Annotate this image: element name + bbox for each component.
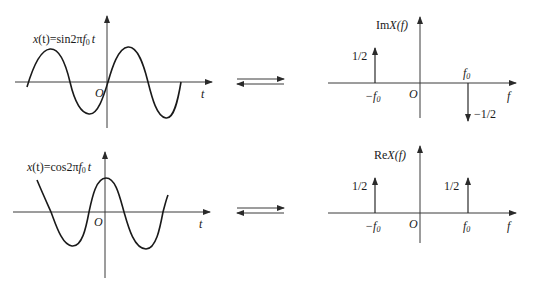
transform-arrows-bottom xyxy=(237,208,284,213)
origin-label: O xyxy=(409,87,418,101)
f-axis-label: f xyxy=(507,219,512,233)
re-axis-label: ReX(f) xyxy=(374,148,406,162)
im-axis-label: ImX(f) xyxy=(376,18,408,32)
origin-label: O xyxy=(409,217,418,231)
pos-impulse-value: 1/2 xyxy=(444,179,459,193)
neg-impulse-value: 1/2 xyxy=(352,179,367,193)
cos-formula: x(t)=cos2πf0t xyxy=(26,160,92,175)
neg-impulse-value: 1/2 xyxy=(352,49,367,63)
neg-f0-label: −f0 xyxy=(365,219,380,234)
pos-f0-label: f0 xyxy=(463,66,470,81)
transform-arrows-top xyxy=(237,79,284,84)
t-axis-label: t xyxy=(199,217,203,231)
pos-f0-label: f0 xyxy=(463,219,470,234)
sin-spectrum-panel: ImX(f) 1/2 −1/2 −f0 f0 O f xyxy=(328,17,516,121)
neg-f0-label: −f0 xyxy=(365,89,380,104)
pos-impulse-value: −1/2 xyxy=(474,107,496,121)
cos-time-panel: x(t)=cos2πf0t O t xyxy=(13,152,210,278)
origin-label: O xyxy=(94,215,103,229)
cosine-curve xyxy=(37,178,168,249)
fourier-pairs-diagram: x(t)=sin2πf0t O t ImX(f) 1/2 −1/2 −f0 f0… xyxy=(0,0,533,284)
t-axis-label: t xyxy=(201,87,205,101)
sin-formula: x(t)=sin2πf0t xyxy=(32,32,96,47)
cos-spectrum-panel: ReX(f) 1/2 1/2 −f0 f0 O f xyxy=(328,146,516,243)
sin-time-panel: x(t)=sin2πf0t O t xyxy=(15,16,212,128)
sine-curve xyxy=(27,47,181,118)
f-axis-label: f xyxy=(507,89,512,103)
origin-label: O xyxy=(95,86,104,100)
